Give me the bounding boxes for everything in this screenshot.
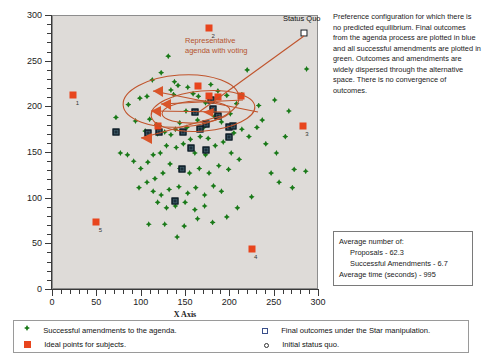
y-axis-tick [45, 61, 51, 62]
y-axis-tick [47, 161, 51, 162]
x-axis-tick [309, 290, 310, 294]
x-axis-tick-label: 200 [222, 297, 237, 307]
square-open-blue-icon [262, 328, 268, 334]
legend-label-ideal-points: Ideal points for subjects. [44, 340, 126, 349]
y-axis-tick [47, 207, 51, 208]
y-axis-tick [47, 24, 51, 25]
status-quo-label: Status Quo [283, 14, 321, 23]
x-axis-tick [132, 290, 133, 294]
stats-amendments: Successful Amendments - 6.7 [339, 258, 467, 269]
y-axis-tick [47, 216, 51, 217]
x-axis-tick-label: 150 [177, 297, 192, 307]
x-axis-tick [318, 290, 319, 296]
y-axis-tick-label: 150 [27, 147, 42, 157]
y-axis-tick-label: 200 [27, 101, 42, 111]
y-axis-tick [45, 198, 51, 199]
legend-label-final-outcomes: Final outcomes under the Star manipulati… [281, 326, 430, 335]
y-axis-tick [45, 106, 51, 107]
y-axis-tick-label: 50 [32, 238, 42, 248]
x-axis-tick [141, 290, 142, 296]
x-axis-tick [300, 290, 301, 294]
y-axis-tick [47, 225, 51, 226]
y-axis-tick [45, 289, 51, 290]
x-axis-title: X Axis [52, 310, 318, 319]
x-axis-tick-label: 0 [49, 297, 54, 307]
legend-item-status-quo: Initial status quo. [264, 340, 339, 349]
x-axis-tick-label: 50 [91, 297, 101, 307]
x-axis-tick [247, 290, 248, 294]
x-axis-tick [238, 290, 239, 294]
x-axis-tick [265, 290, 266, 294]
y-axis-tick [45, 152, 51, 153]
agenda-annotation-label: Representative agenda with voting [185, 36, 248, 56]
x-axis-tick [185, 290, 186, 296]
x-axis-tick [158, 290, 159, 294]
x-axis-tick [79, 290, 80, 294]
y-axis-tick-label: 100 [27, 193, 42, 203]
y-axis-tick [47, 280, 51, 281]
y-axis-tick [47, 79, 51, 80]
x-axis-tick-label: 250 [266, 297, 281, 307]
stats-title: Average number of: [339, 237, 404, 246]
y-axis-tick [47, 252, 51, 253]
stats-time: Average time (seconds) - 995 [339, 270, 436, 279]
y-axis-tick [45, 243, 51, 244]
x-axis-tick [105, 290, 106, 294]
x-axis-tick [283, 290, 284, 294]
y-axis-tick-label: 0 [37, 284, 42, 294]
x-axis-tick-label: 300 [310, 297, 325, 307]
x-axis-tick [203, 290, 204, 294]
stats-proposals: Proposals - 62.3 [339, 247, 467, 258]
legend-box: Successful amendments to the agenda. Ide… [13, 320, 469, 353]
y-axis-tick-label: 250 [27, 56, 42, 66]
figure-description-text: Preference configuration for which there… [333, 12, 481, 97]
y-axis-tick [47, 42, 51, 43]
y-axis-tick [47, 88, 51, 89]
x-axis-tick [52, 290, 53, 296]
agenda-path-overlay [53, 16, 319, 290]
statistics-box: Average number of: Proposals - 62.3 Succ… [333, 231, 473, 286]
y-axis-tick [47, 33, 51, 34]
y-axis-tick-label: 300 [27, 10, 42, 20]
figure-root: 12345 0501 [0, 0, 484, 363]
y-axis-tick [47, 52, 51, 53]
y-axis-tick [47, 115, 51, 116]
x-axis-tick [61, 290, 62, 294]
y-axis-tick [47, 70, 51, 71]
legend-item-final-outcomes: Final outcomes under the Star manipulati… [262, 326, 430, 335]
x-axis-tick [150, 290, 151, 294]
circle-small-icon [264, 343, 269, 348]
y-axis-tick [47, 170, 51, 171]
y-axis-tick [47, 271, 51, 272]
x-axis-tick [96, 290, 97, 296]
legend-item-amendments: Successful amendments to the agenda. [24, 326, 177, 335]
x-axis-tick [274, 290, 275, 296]
y-axis-tick [47, 234, 51, 235]
y-axis-tick [47, 189, 51, 190]
x-axis-tick-label: 100 [133, 297, 148, 307]
y-axis-tick [47, 97, 51, 98]
legend-label-amendments: Successful amendments to the agenda. [43, 326, 176, 335]
x-axis-tick [123, 290, 124, 294]
y-axis-line [51, 15, 52, 290]
x-axis-tick [194, 290, 195, 294]
x-axis-tick [167, 290, 168, 294]
x-axis-tick [229, 290, 230, 296]
y-axis-tick [47, 179, 51, 180]
x-axis-tick [70, 290, 71, 294]
legend-item-ideal-points: Ideal points for subjects. [24, 340, 126, 349]
x-axis-tick [220, 290, 221, 294]
y-axis-tick [45, 15, 51, 16]
x-axis-tick [176, 290, 177, 294]
x-axis-tick [114, 290, 115, 294]
y-axis-tick [47, 143, 51, 144]
square-red-icon [24, 341, 31, 348]
x-axis-tick [256, 290, 257, 294]
y-axis-tick [47, 134, 51, 135]
legend-label-status-quo: Initial status quo. [282, 340, 339, 349]
x-axis-tick [212, 290, 213, 294]
y-axis-tick [47, 125, 51, 126]
y-axis-tick [47, 262, 51, 263]
diamond-green-icon [24, 325, 30, 331]
arrowheads [141, 86, 214, 144]
